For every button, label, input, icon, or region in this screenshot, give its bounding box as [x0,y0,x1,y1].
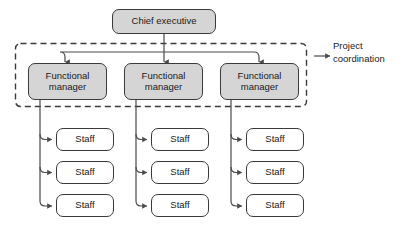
node-functional-manager-2-label: Functional manager [142,71,186,93]
node-staff-1-3[interactable]: Staff [56,194,114,217]
connector-manager-2-staff-2 [136,167,147,173]
connector-manager-3-drop [231,100,242,206]
connector-manager-1-staff-2 [40,167,52,173]
node-functional-manager-1[interactable]: Functional manager [28,63,107,100]
connector-manager-2-staff-1 [136,134,147,140]
diagram-canvas: Chief executive Functional manager Funct… [0,0,404,232]
connector-exec-to-manager-3 [164,52,259,62]
node-functional-manager-1-label: Functional manager [46,71,90,93]
node-functional-manager-2[interactable]: Functional manager [124,63,203,100]
node-functional-manager-3-label: Functional manager [238,71,282,93]
node-staff-3-2-label: Staff [265,167,284,178]
node-staff-2-3-label: Staff [170,200,189,211]
node-chief-executive-label: Chief executive [132,16,197,27]
connector-manager-3-staff-2 [231,167,242,173]
node-chief-executive[interactable]: Chief executive [112,9,216,34]
node-staff-2-1[interactable]: Staff [151,128,209,151]
node-staff-2-3[interactable]: Staff [151,194,209,217]
node-staff-3-1[interactable]: Staff [246,128,304,151]
connector-exec-to-manager-1 [60,52,164,62]
node-staff-1-2-label: Staff [75,167,94,178]
node-staff-2-2[interactable]: Staff [151,161,209,184]
annotation-project-coordination: Project coordination [333,40,385,66]
connector-manager-2-drop [136,100,147,206]
node-staff-1-2[interactable]: Staff [56,161,114,184]
node-staff-1-1[interactable]: Staff [56,128,114,151]
node-staff-1-3-label: Staff [75,200,94,211]
node-staff-3-1-label: Staff [265,134,284,145]
node-staff-2-2-label: Staff [170,167,189,178]
connector-manager-1-drop [40,100,52,206]
connector-manager-3-staff-1 [231,134,242,140]
node-staff-2-1-label: Staff [170,134,189,145]
connector-manager-1-staff-1 [40,134,52,140]
node-staff-3-3-label: Staff [265,200,284,211]
node-staff-3-3[interactable]: Staff [246,194,304,217]
node-functional-manager-3[interactable]: Functional manager [220,63,299,100]
node-staff-1-1-label: Staff [75,134,94,145]
node-staff-3-2[interactable]: Staff [246,161,304,184]
